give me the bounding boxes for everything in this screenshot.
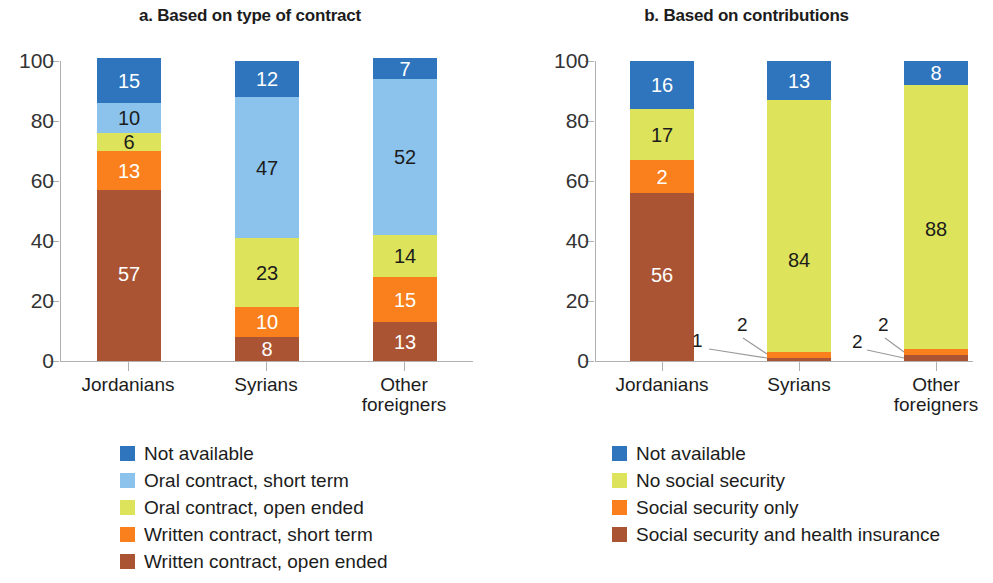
bar-b-jordanians-seg-social-security-only[interactable]: 2 <box>630 160 694 193</box>
legend-a-item-3[interactable]: Written contract, short term <box>120 521 388 548</box>
bar-a-other-value-written-short: 15 <box>394 290 416 310</box>
legend-b-swatch-social-security-only <box>612 500 627 515</box>
bar-b-jordanians-seg-no-social-security[interactable]: 17 <box>630 109 694 160</box>
bar-a-other-value-written-open: 13 <box>394 332 416 352</box>
bar-a-other-seg-written-open[interactable]: 13 <box>373 322 437 361</box>
bar-a-other-value-oral-short: 52 <box>394 147 416 167</box>
legend-b-swatch-not-available <box>612 446 627 461</box>
panel-b-y-axis <box>595 61 596 362</box>
bar-b-jordanians[interactable]: 16 17 2 56 <box>630 61 694 361</box>
panel-a-ytick-label-40: 40 <box>31 229 54 253</box>
panel-a-xlabel-syrians: Syrians <box>186 375 346 395</box>
bar-a-jordanians-seg-oral-open[interactable]: 6 <box>97 133 161 151</box>
panel-a-legend: Not available Oral contract, short term … <box>120 440 388 575</box>
bar-a-syrians-seg-not-available[interactable]: 12 <box>235 61 299 97</box>
bar-b-jordanians-seg-social-and-health[interactable]: 56 <box>630 193 694 361</box>
legend-a-label-3: Written contract, short term <box>144 524 373 546</box>
panel-b-xtick-0 <box>662 362 663 371</box>
bar-b-other-foreigners[interactable]: 8 88 <box>904 61 968 361</box>
bar-a-jordanians-value-oral-short: 10 <box>118 108 140 128</box>
panel-a-ytick-label-80: 80 <box>31 109 54 133</box>
panel-b-ytick-label-100: 100 <box>554 49 589 73</box>
legend-a-item-4[interactable]: Written contract, open ended <box>120 548 388 575</box>
bar-a-jordanians-value-not-available: 15 <box>118 71 140 91</box>
bar-b-syrians-seg-no-social-security[interactable]: 84 <box>767 100 831 352</box>
bar-b-syrians-value-not-available: 13 <box>788 71 810 91</box>
panel-a-plot-area: 100 80 60 40 20 0 15 <box>60 61 473 361</box>
bar-a-other-seg-oral-short[interactable]: 52 <box>373 79 437 235</box>
bar-a-syrians-seg-written-open[interactable]: 8 <box>235 337 299 361</box>
panel-a-xtick-0 <box>128 362 129 371</box>
chart-panel-a: a. Based on type of contract 100 80 60 4… <box>0 0 500 583</box>
legend-b-item-0[interactable]: Not available <box>612 440 940 467</box>
bar-b-jordanians-seg-not-available[interactable]: 16 <box>630 61 694 109</box>
legend-a-swatch-written-short <box>120 527 135 542</box>
bar-a-syrians[interactable]: 12 47 23 10 8 <box>235 61 299 361</box>
bar-b-other-value-no-social-security: 88 <box>925 219 947 239</box>
legend-a-swatch-not-available <box>120 446 135 461</box>
legend-a-swatch-oral-short <box>120 473 135 488</box>
panel-b-ytick-label-60: 60 <box>566 169 589 193</box>
panel-b-ytick-label-20: 20 <box>566 289 589 313</box>
legend-a-swatch-written-open <box>120 554 135 569</box>
bar-a-jordanians[interactable]: 15 10 6 13 57 <box>97 58 161 361</box>
bar-b-syrians[interactable]: 13 84 <box>767 61 831 361</box>
bar-b-jordanians-value-no-social-security: 17 <box>651 125 673 145</box>
bar-a-syrians-seg-oral-short[interactable]: 47 <box>235 97 299 238</box>
legend-a-label-1: Oral contract, short term <box>144 470 349 492</box>
panel-a-ytick-label-20: 20 <box>31 289 54 313</box>
legend-a-label-2: Oral contract, open ended <box>144 497 364 519</box>
bar-a-syrians-seg-oral-open[interactable]: 23 <box>235 238 299 307</box>
panel-a-xlabel-jordanians: Jordanians <box>48 375 208 395</box>
panel-b-xlabel-other-foreigners: Other foreigners <box>856 375 993 415</box>
panel-b-legend: Not available No social security Social … <box>612 440 940 548</box>
bar-b-other-seg-social-and-health[interactable] <box>904 355 968 361</box>
bar-b-jordanians-value-social-security-only: 2 <box>656 167 667 187</box>
legend-b-label-1: No social security <box>636 470 785 492</box>
bar-a-jordanians-seg-written-open[interactable]: 57 <box>97 190 161 361</box>
bar-a-syrians-value-oral-open: 23 <box>256 263 278 283</box>
bar-a-other-value-not-available: 7 <box>399 59 410 79</box>
legend-a-swatch-oral-open <box>120 500 135 515</box>
bar-a-other-seg-not-available[interactable]: 7 <box>373 58 437 79</box>
panel-b-xtick-2 <box>936 362 937 371</box>
bar-a-other-value-oral-open: 14 <box>394 246 416 266</box>
bar-b-syrians-seg-not-available[interactable]: 13 <box>767 61 831 100</box>
bar-b-syrians-seg-social-and-health[interactable] <box>767 358 831 361</box>
legend-a-label-0: Not available <box>144 443 254 465</box>
bar-a-other-foreigners[interactable]: 7 52 14 15 13 <box>373 58 437 361</box>
panel-a-xlabel-other-foreigners: Other foreigners <box>324 375 484 415</box>
bar-a-jordanians-seg-oral-short[interactable]: 10 <box>97 103 161 133</box>
legend-b-item-2[interactable]: Social security only <box>612 494 940 521</box>
legend-a-item-0[interactable]: Not available <box>120 440 388 467</box>
panel-b-x-axis <box>595 361 973 362</box>
bar-b-syrians-value-no-social-security: 84 <box>788 250 810 270</box>
legend-b-label-2: Social security only <box>636 497 799 519</box>
bar-b-other-value-not-available: 8 <box>930 63 941 83</box>
callout-other-social-security-only: 2 <box>878 314 889 336</box>
legend-b-item-1[interactable]: No social security <box>612 467 940 494</box>
legend-b-item-3[interactable]: Social security and health insurance <box>612 521 940 548</box>
bar-a-jordanians-seg-not-available[interactable]: 15 <box>97 58 161 103</box>
callout-syrians-social-and-health: 1 <box>692 330 703 352</box>
bar-b-other-seg-no-social-security[interactable]: 88 <box>904 85 968 349</box>
legend-a-item-1[interactable]: Oral contract, short term <box>120 467 388 494</box>
bar-b-jordanians-value-not-available: 16 <box>651 75 673 95</box>
panel-b-xlabel-jordanians: Jordanians <box>582 375 742 395</box>
callout-other-social-and-health: 2 <box>852 331 863 353</box>
bar-a-other-seg-oral-open[interactable]: 14 <box>373 235 437 277</box>
panel-a-title: a. Based on type of contract <box>0 6 500 26</box>
callout-syrians-social-security-only: 2 <box>737 314 748 336</box>
bar-a-syrians-seg-written-short[interactable]: 10 <box>235 307 299 337</box>
bar-a-syrians-value-written-short: 10 <box>256 312 278 332</box>
bar-a-jordanians-seg-written-short[interactable]: 13 <box>97 151 161 190</box>
bar-a-other-seg-written-short[interactable]: 15 <box>373 277 437 322</box>
panel-b-ytick-label-0: 0 <box>577 349 589 373</box>
bar-b-other-seg-not-available[interactable]: 8 <box>904 61 968 85</box>
panel-a-ytick-label-100: 100 <box>19 49 54 73</box>
panel-b-title: b. Based on contributions <box>500 6 993 26</box>
legend-a-label-4: Written contract, open ended <box>144 551 388 573</box>
bar-a-syrians-value-not-available: 12 <box>256 69 278 89</box>
bar-a-jordanians-value-written-open: 57 <box>118 264 140 284</box>
legend-a-item-2[interactable]: Oral contract, open ended <box>120 494 388 521</box>
